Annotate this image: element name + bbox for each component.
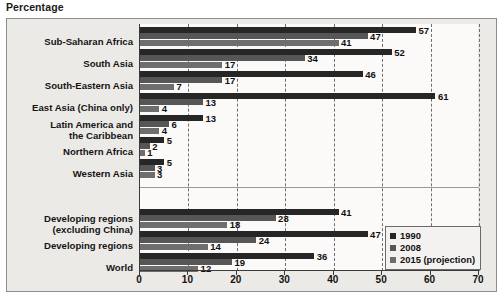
bar-2008-7 xyxy=(140,215,276,221)
bar-value-label: 24 xyxy=(259,236,270,245)
bar-2008-1 xyxy=(140,55,305,61)
bar-2015-6 xyxy=(140,172,155,178)
bar-value-label: 12 xyxy=(201,264,212,273)
legend-label: 1990 xyxy=(400,230,421,242)
bar-2015-5 xyxy=(140,150,145,156)
bar-value-label: 28 xyxy=(278,214,289,223)
bar-1990-2 xyxy=(140,71,363,77)
bar-value-label: 57 xyxy=(419,26,430,35)
bar-2015-1 xyxy=(140,62,222,68)
bar-1990-7 xyxy=(140,209,339,215)
legend-swatch-icon xyxy=(390,257,396,263)
bar-group: 1364 xyxy=(140,115,479,135)
legend-item[interactable]: 2008 xyxy=(390,242,475,254)
bar-2015-7 xyxy=(140,222,227,228)
x-tick-label: 30 xyxy=(279,274,290,285)
category-label: Sub-Saharan Africa xyxy=(0,36,133,47)
bar-value-label: 17 xyxy=(225,60,236,69)
bar-1990-8 xyxy=(140,231,368,237)
bar-value-label: 47 xyxy=(370,32,381,41)
group-separator xyxy=(140,187,479,188)
bar-value-label: 5 xyxy=(167,158,172,167)
bar-value-label: 6 xyxy=(172,120,177,129)
x-tick-label: 40 xyxy=(327,274,338,285)
bar-group: 521 xyxy=(140,137,479,157)
bar-2008-6 xyxy=(140,165,155,171)
bar-value-label: 14 xyxy=(210,242,221,251)
bar-2015-8 xyxy=(140,244,208,250)
chart-legend: 199020082015 (projection) xyxy=(385,226,481,270)
legend-swatch-icon xyxy=(390,245,396,251)
category-label: Developing regions xyxy=(0,240,133,251)
bar-value-label: 34 xyxy=(307,54,318,63)
bar-2015-9 xyxy=(140,266,198,272)
bar-2008-0 xyxy=(140,33,368,39)
category-label: East Asia (China only) xyxy=(0,102,133,113)
page-title: Percentage xyxy=(6,1,64,13)
category-label: South Asia xyxy=(0,58,133,69)
bar-value-label: 47 xyxy=(370,230,381,239)
x-tick-label: 0 xyxy=(136,274,142,285)
bar-value-label: 41 xyxy=(341,208,352,217)
bar-2015-2 xyxy=(140,84,174,90)
bar-value-label: 5 xyxy=(167,136,172,145)
bar-2008-3 xyxy=(140,99,203,105)
legend-item[interactable]: 2015 (projection) xyxy=(390,254,475,266)
bar-2008-8 xyxy=(140,237,256,243)
x-tick-label: 20 xyxy=(230,274,241,285)
legend-swatch-icon xyxy=(390,233,396,239)
x-tick-label: 70 xyxy=(472,274,483,285)
bar-1990-3 xyxy=(140,93,435,99)
bar-1990-9 xyxy=(140,253,314,259)
category-label: South-Eastern Asia xyxy=(0,80,133,91)
bar-group: 46177 xyxy=(140,71,479,91)
bar-2015-4 xyxy=(140,128,159,134)
x-tick-label: 60 xyxy=(424,274,435,285)
bar-value-label: 36 xyxy=(317,252,328,261)
legend-label: 2015 (projection) xyxy=(400,254,475,266)
bar-value-label: 41 xyxy=(341,38,352,47)
bar-value-label: 4 xyxy=(162,126,167,135)
bar-value-label: 61 xyxy=(438,92,449,101)
x-tick-label: 10 xyxy=(182,274,193,285)
legend-item[interactable]: 1990 xyxy=(390,230,475,242)
legend-label: 2008 xyxy=(400,242,421,254)
category-label: Developing regions (excluding China) xyxy=(0,213,133,235)
bar-value-label: 3 xyxy=(157,170,162,179)
bar-value-label: 13 xyxy=(205,98,216,107)
bar-value-label: 1 xyxy=(147,148,152,157)
bar-2015-0 xyxy=(140,40,339,46)
category-label: Northern Africa xyxy=(0,146,133,157)
category-label: Western Asia xyxy=(0,168,133,179)
bar-value-label: 19 xyxy=(235,258,246,267)
chart-page: Percentage 57474152341746177611341364521… xyxy=(0,0,503,300)
bar-value-label: 7 xyxy=(176,82,181,91)
bar-2015-3 xyxy=(140,106,159,112)
chart-area: 5747415234174617761134136452153341281847… xyxy=(6,18,497,292)
bar-2008-9 xyxy=(140,259,232,265)
bar-value-label: 18 xyxy=(230,220,241,229)
bar-group: 61134 xyxy=(140,93,479,113)
bar-group: 574741 xyxy=(140,27,479,47)
category-label: Latin America and the Caribbean xyxy=(0,119,133,141)
category-label: World xyxy=(0,262,133,273)
bar-1990-1 xyxy=(140,49,392,55)
bar-value-label: 17 xyxy=(225,76,236,85)
bar-group: 533 xyxy=(140,159,479,179)
bar-value-label: 46 xyxy=(365,70,376,79)
bar-group: 523417 xyxy=(140,49,479,69)
bar-value-label: 4 xyxy=(162,104,167,113)
bar-value-label: 52 xyxy=(394,48,405,57)
x-tick-label: 50 xyxy=(376,274,387,285)
bar-value-label: 13 xyxy=(205,114,216,123)
